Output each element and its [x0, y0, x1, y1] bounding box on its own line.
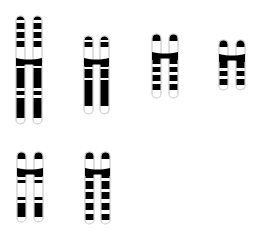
band [16, 180, 27, 183]
band [83, 69, 94, 78]
band [151, 84, 162, 90]
chromosome-2[interactable] [83, 36, 110, 114]
band [84, 152, 95, 159]
chromatid-right-p-arm [99, 36, 110, 62]
band-group [218, 40, 229, 47]
band [15, 91, 26, 95]
centromere [17, 168, 43, 176]
band [84, 181, 95, 189]
band [99, 42, 110, 47]
band [100, 192, 111, 199]
band [168, 67, 179, 72]
chromosome-3[interactable] [151, 34, 179, 98]
chromatid-left-q-arm [84, 172, 95, 224]
band [151, 67, 162, 72]
band [16, 197, 27, 200]
band [32, 91, 43, 95]
chromatid-left-q-arm [151, 56, 162, 98]
band [32, 98, 43, 118]
band-group [33, 152, 44, 159]
band [33, 180, 44, 183]
chromatid-left-q-arm [16, 172, 27, 222]
centromere [219, 54, 245, 62]
chromosome-1[interactable] [15, 16, 43, 124]
band-group [84, 152, 95, 159]
chromatid-left-q-arm [15, 62, 26, 124]
chromatid-right-q-arm [99, 62, 110, 114]
band [32, 68, 43, 88]
chromatid-left-p-arm [15, 16, 26, 62]
band [33, 197, 44, 200]
chromatid-right-p-arm [32, 16, 43, 62]
band [99, 80, 110, 106]
band [235, 79, 246, 85]
band [100, 214, 111, 220]
band [218, 40, 229, 47]
band [15, 32, 26, 38]
chromatid-outline [16, 16, 25, 62]
band [32, 32, 43, 38]
chromatid-right-q-arm [32, 62, 43, 124]
band [168, 34, 179, 41]
band [16, 203, 27, 217]
band-group [151, 34, 162, 41]
band-group [218, 58, 229, 85]
centromere [16, 58, 42, 66]
band [32, 23, 43, 29]
band-group [235, 58, 246, 85]
band [168, 84, 179, 90]
band [15, 68, 26, 88]
band [16, 152, 27, 159]
chromatid-right-q-arm [235, 58, 246, 90]
chromosome-4[interactable] [218, 40, 246, 90]
band [100, 203, 111, 210]
centromere [84, 58, 109, 66]
band [32, 41, 43, 47]
band [83, 42, 94, 47]
band [33, 152, 44, 159]
chromatid-left-q-arm [83, 62, 94, 114]
chromatid-right-q-arm [100, 172, 111, 224]
chromosome-diagram-svg [0, 0, 268, 240]
chromatid-left-p-arm [83, 36, 94, 62]
band [218, 79, 229, 85]
centromere [85, 168, 110, 176]
band-group [16, 152, 27, 159]
band [168, 75, 179, 81]
band [84, 214, 95, 220]
band [235, 71, 246, 76]
band [33, 203, 44, 217]
band [151, 34, 162, 41]
chromatid-right-q-arm [168, 56, 179, 98]
centromere [152, 52, 178, 60]
band [15, 98, 26, 118]
band [15, 23, 26, 29]
chromatid-left-q-arm [218, 58, 229, 90]
band [100, 181, 111, 189]
band [15, 41, 26, 47]
chromosome-5[interactable] [16, 152, 44, 222]
chromosome-figure [0, 0, 268, 240]
band-group [168, 34, 179, 41]
chromosome-6[interactable] [84, 152, 111, 224]
band [151, 75, 162, 81]
band [83, 80, 94, 106]
band [84, 203, 95, 210]
band [100, 152, 111, 159]
chromatid-outline [33, 16, 42, 62]
band [218, 71, 229, 76]
band-group [100, 152, 111, 159]
chromatid-right-q-arm [33, 172, 44, 222]
band [84, 192, 95, 199]
band [99, 69, 110, 78]
